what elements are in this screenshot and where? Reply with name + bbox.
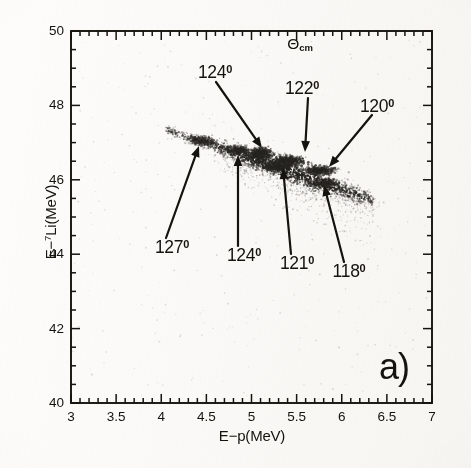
x-tick-label: 5 [248,410,256,424]
angle-label-120-top: 1200 [360,98,394,116]
y-axis-title-suffix: Li(MeV) [42,185,59,236]
panel-label: a) [379,349,409,385]
angle-label-124-top: 1240 [198,64,232,82]
x-tick-label: 6 [338,410,346,424]
annotation-arrow-127 [166,146,199,238]
degree-symbol: 0 [308,254,314,266]
x-tick-label: 5.5 [287,410,306,424]
degree-symbol: 0 [360,262,366,274]
theta-cm-header: Θcm [287,36,312,52]
angle-value: 122 [285,78,313,98]
angle-value: 124 [198,62,226,82]
y-tick-label: 48 [36,99,64,113]
degree-symbol: 0 [388,97,394,109]
angle-value: 118 [333,261,360,281]
x-tick-label: 3.5 [107,410,126,424]
x-tick-label: 7 [428,410,436,424]
annotation-arrows [166,82,372,262]
angle-value: 127 [155,237,183,257]
degree-symbol: 0 [183,238,189,250]
angle-label-122-top: 1220 [285,80,319,98]
y-tick-label: 40 [36,396,64,410]
figure-panel: 33.544.555.566.57 404244464850 E−p(MeV) … [0,0,471,468]
y-axis-title: E−7Li(MeV) [43,185,58,260]
theta-subscript: cm [299,42,312,53]
data-point-cloud [71,33,431,399]
x-tick-label: 3 [67,410,75,424]
degree-symbol: 0 [255,246,261,258]
angle-value: 124 [227,245,255,265]
y-tick-label: 50 [36,24,64,38]
annotation-arrow-124 [216,82,262,148]
angle-label-118-bottom: 1180 [333,263,366,281]
scatter-plot-canvas [0,0,471,468]
x-axis-title: E−p(MeV) [219,428,285,443]
angle-label-124-bottom: 1240 [227,247,261,265]
annotation-arrow-122 [301,98,310,152]
angle-label-127-bottom: 1270 [155,239,189,257]
axis-frame [71,31,432,403]
y-tick-label: 42 [36,322,64,336]
angle-value: 120 [360,96,388,116]
x-tick-label: 4 [157,410,165,424]
x-tick-label: 6.5 [377,410,396,424]
y-axis-title-prefix: E− [42,241,59,259]
y-axis-title-superscript: 7 [42,236,53,241]
angle-value: 121 [280,253,308,273]
annotation-arrow-120 [329,115,372,167]
x-tick-label: 4.5 [197,410,216,424]
theta-symbol: Θ [287,35,299,52]
degree-symbol: 0 [226,63,232,75]
angle-label-121-bottom: 1210 [280,255,314,273]
degree-symbol: 0 [313,79,319,91]
